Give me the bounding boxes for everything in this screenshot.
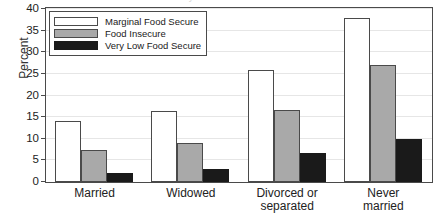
bar: [274, 110, 300, 182]
x-axis-label-line: married: [323, 200, 439, 213]
bar: [107, 173, 133, 182]
bar-group: [344, 8, 422, 182]
legend-label: Food Insecure: [105, 28, 166, 39]
y-tick-label: 40: [26, 2, 39, 14]
legend-label: Very Low Food Secure: [105, 40, 201, 51]
bar: [55, 121, 81, 182]
y-tick-label: 15: [26, 110, 39, 122]
y-tick-label: 20: [26, 89, 39, 101]
legend: Marginal Food Secure Food Insecure Very …: [49, 11, 207, 56]
bar: [248, 70, 274, 182]
y-tick-label: 30: [26, 45, 39, 57]
legend-swatch-food-insecure: [54, 29, 98, 38]
y-tick-label: 10: [26, 132, 39, 144]
legend-item: Very Low Food Secure: [54, 40, 201, 51]
bar: [370, 65, 396, 182]
bar-group: [248, 8, 326, 182]
bar: [344, 18, 370, 182]
y-tick-label: 0: [33, 175, 39, 187]
x-axis-label-line: Never: [323, 187, 439, 200]
bar: [81, 150, 107, 182]
bar: [396, 139, 422, 182]
legend-item: Food Insecure: [54, 28, 201, 39]
bar-chart-figure: Percent 0510152025303540 Marginal Food S…: [0, 0, 439, 216]
legend-swatch-very-low-food-secure: [54, 41, 98, 50]
y-tick-label: 5: [33, 153, 39, 165]
legend-item: Marginal Food Secure: [54, 16, 201, 27]
legend-label: Marginal Food Secure: [105, 16, 198, 27]
bar: [151, 111, 177, 182]
y-tick-label: 25: [26, 67, 39, 79]
bar: [203, 169, 229, 182]
bar: [300, 153, 326, 182]
legend-swatch-marginal-food-secure: [54, 17, 98, 26]
plot-frame: 0510152025303540 Marginal Food Secure Fo…: [45, 7, 433, 183]
bar: [177, 143, 203, 182]
x-axis-label: Nevermarried: [323, 187, 439, 212]
y-tick-label: 35: [26, 24, 39, 36]
